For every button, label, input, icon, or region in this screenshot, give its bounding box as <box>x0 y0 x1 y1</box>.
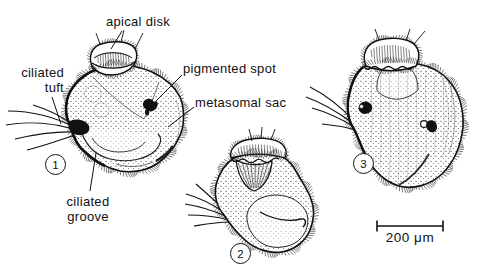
stage-3-badge: 3 <box>353 153 374 174</box>
stage-1-badge: 1 <box>45 154 66 175</box>
stage-2-number: 2 <box>237 248 243 260</box>
label-apical-disk: apical disk <box>100 14 176 29</box>
label-ciliated-tuft: ciliated tuft <box>10 65 64 95</box>
label-pigmented-spot: pigmented spot <box>183 61 276 76</box>
stage-2-badge: 2 <box>230 243 251 264</box>
stage-1-number: 1 <box>52 159 58 171</box>
scale-bar-label: 200 μm <box>376 230 444 245</box>
larva-stage-1 <box>6 30 189 177</box>
label-metasomal-sac: metasomal sac <box>195 95 286 110</box>
stage-3-number: 3 <box>360 158 366 170</box>
figure: apical disk ciliated tuft pigmented spot… <box>0 0 485 278</box>
larva-stage-2 <box>185 127 319 258</box>
label-ciliated-groove: ciliated groove <box>60 194 116 224</box>
